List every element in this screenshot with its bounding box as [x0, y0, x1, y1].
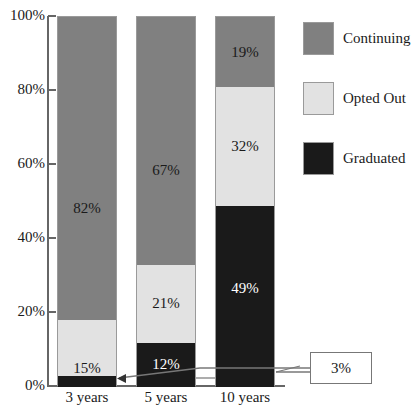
segment-value-label: 12%	[152, 357, 180, 372]
segment-graduated[interactable]: 12%	[137, 343, 195, 387]
segment-value-label: 49%	[231, 281, 259, 296]
segment-value-label: 15%	[73, 361, 101, 376]
segment-value-label: 82%	[73, 201, 101, 216]
legend-label: Graduated	[343, 151, 405, 166]
y-tick-mark	[48, 89, 56, 91]
bar-10-years[interactable]: 19%32%49%	[215, 16, 275, 386]
legend-item-graduated[interactable]: Graduated	[303, 142, 405, 175]
segment-value-label: 21%	[152, 296, 180, 311]
segment-opted-out[interactable]: 21%	[137, 265, 195, 343]
segment-continuing[interactable]: 19%	[216, 17, 274, 87]
y-tick-mark	[48, 163, 56, 165]
category-label-10-years: 10 years	[200, 389, 290, 406]
legend-label: Continuing	[343, 31, 411, 46]
bar-3-years[interactable]: 82%15%	[57, 16, 117, 386]
stacked-bar-chart: 100%80%60%40%20%0% 82%15%67%21%12%19%32%…	[0, 0, 415, 411]
callout-value: 3%	[331, 361, 351, 376]
segment-graduated[interactable]: 49%	[216, 206, 274, 387]
y-tick-label: 100%	[0, 8, 45, 23]
segment-value-label: 19%	[231, 45, 259, 60]
category-label-5-years: 5 years	[121, 389, 211, 406]
callout-box-3-percent: 3%	[310, 352, 372, 384]
y-tick-label: 60%	[0, 156, 45, 171]
segment-continuing[interactable]: 82%	[58, 17, 116, 320]
category-label-3-years: 3 years	[42, 389, 132, 406]
segment-opted-out[interactable]: 32%	[216, 87, 274, 205]
segment-value-label: 67%	[152, 163, 180, 178]
y-tick-mark	[48, 311, 56, 313]
y-tick-mark	[48, 15, 56, 17]
bar-5-years[interactable]: 67%21%12%	[136, 16, 196, 386]
y-tick-label: 40%	[0, 230, 45, 245]
segment-continuing[interactable]: 67%	[137, 17, 195, 265]
y-tick-label: 0%	[0, 378, 45, 393]
legend-item-opted-out[interactable]: Opted Out	[303, 82, 406, 115]
segment-graduated[interactable]	[58, 376, 116, 387]
y-axis-line	[47, 16, 49, 387]
segment-opted-out[interactable]: 15%	[58, 320, 116, 376]
y-tick-label: 80%	[0, 82, 45, 97]
legend-swatch	[303, 142, 334, 175]
legend-item-continuing[interactable]: Continuing	[303, 22, 411, 55]
y-tick-mark	[48, 237, 56, 239]
legend-label: Opted Out	[343, 91, 406, 106]
segment-value-label: 32%	[231, 139, 259, 154]
y-tick-label: 20%	[0, 304, 45, 319]
legend-swatch	[303, 22, 334, 55]
legend-swatch	[303, 82, 334, 115]
y-tick-mark	[48, 385, 56, 387]
